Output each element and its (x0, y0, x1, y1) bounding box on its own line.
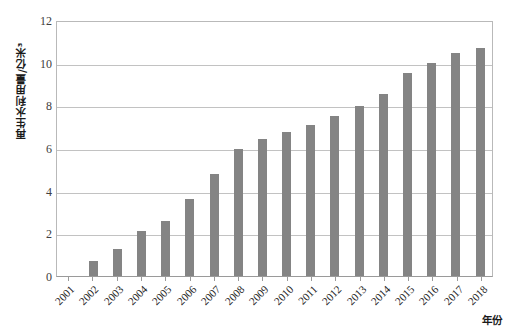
bar[interactable] (330, 116, 339, 276)
bar[interactable] (210, 174, 219, 276)
bar-slot (299, 22, 323, 276)
x-axis-label-slot: 2007 (202, 281, 226, 327)
bar-slot (226, 22, 250, 276)
bar[interactable] (258, 139, 267, 276)
x-axis-label-slot: 2003 (105, 281, 129, 327)
x-axis-label-slot: 2004 (129, 281, 153, 327)
x-axis-tick-label: 2016 (417, 283, 441, 307)
bar-slot (250, 22, 274, 276)
y-axis-tick-label: 10 (30, 56, 52, 71)
x-axis-tick-label: 2012 (320, 283, 344, 307)
bar[interactable] (161, 221, 170, 276)
x-axis-label-slot: 2017 (445, 281, 469, 327)
bar-slot (323, 22, 347, 276)
x-axis-tick-label: 2002 (77, 283, 101, 307)
x-axis-label-slot: 2008 (226, 281, 250, 327)
bar[interactable] (427, 63, 436, 276)
x-axis-tick-label: 2017 (441, 283, 465, 307)
x-axis-label-slot: 2001 (56, 281, 80, 327)
y-axis-tick-label: 6 (30, 142, 52, 157)
bar[interactable] (476, 48, 485, 276)
bar[interactable] (306, 125, 315, 276)
x-axis-tick-label: 2008 (223, 283, 247, 307)
x-axis-label-slot: 2002 (80, 281, 104, 327)
y-axis-title: 再生水利用量/亿米³ (12, 16, 30, 166)
bar-series (57, 22, 492, 276)
bar[interactable] (451, 53, 460, 276)
bar[interactable] (137, 231, 146, 276)
bar[interactable] (113, 249, 122, 276)
x-axis-label-slot: 2014 (372, 281, 396, 327)
x-axis-tick-label: 2006 (174, 283, 198, 307)
y-axis-tick-label: 12 (30, 14, 52, 29)
x-axis-tick-label: 2013 (344, 283, 368, 307)
x-axis-label-slot: 2010 (275, 281, 299, 327)
x-axis-tick-label: 2010 (271, 283, 295, 307)
bar[interactable] (234, 149, 243, 276)
bar-slot (81, 22, 105, 276)
bar-slot (105, 22, 129, 276)
y-axis-tick-labels: 024681012 (30, 21, 52, 277)
bar-slot (202, 22, 226, 276)
bar-slot (154, 22, 178, 276)
x-axis-label-slot: 2012 (323, 281, 347, 327)
x-axis-tick-label: 2005 (150, 283, 174, 307)
bar-slot (371, 22, 395, 276)
bar[interactable] (403, 73, 412, 276)
x-axis-tick-label: 2011 (296, 283, 320, 307)
bar-slot (57, 22, 81, 276)
y-axis-tick-label: 2 (30, 227, 52, 242)
x-axis-label-slot: 2011 (299, 281, 323, 327)
bar[interactable] (89, 261, 98, 276)
x-axis-tick-label: 2001 (53, 283, 77, 307)
x-axis-label-slot: 2016 (420, 281, 444, 327)
bar-slot (178, 22, 202, 276)
x-axis-tick-label: 2007 (198, 283, 222, 307)
bar-slot (468, 22, 492, 276)
x-axis-label-slot: 2015 (396, 281, 420, 327)
x-axis-tick-label: 2004 (125, 283, 149, 307)
bar-slot (275, 22, 299, 276)
x-axis-tick-label: 2018 (465, 283, 489, 307)
x-axis-tick-label: 2003 (101, 283, 125, 307)
bar-slot (347, 22, 371, 276)
bar-slot (130, 22, 154, 276)
y-axis-tick-label: 4 (30, 184, 52, 199)
bar[interactable] (185, 199, 194, 276)
x-axis-label-slot: 2006 (177, 281, 201, 327)
x-axis-tick-label: 2009 (247, 283, 271, 307)
x-axis-tick-label: 2014 (368, 283, 392, 307)
x-axis-label-slot: 2009 (250, 281, 274, 327)
bar-slot (395, 22, 419, 276)
bar[interactable] (355, 106, 364, 276)
x-axis-tick-label: 2015 (393, 283, 417, 307)
x-axis-tick-labels: 2001200220032004200520062007200820092010… (56, 281, 493, 327)
bar[interactable] (379, 94, 388, 276)
bar-chart: 再生水利用量/亿米³ 024681012 2001200220032004200… (0, 0, 508, 333)
x-axis-title: 年份 (482, 312, 502, 327)
bar[interactable] (282, 132, 291, 276)
bar-slot (444, 22, 468, 276)
x-axis-label-slot: 2013 (347, 281, 371, 327)
plot-area (56, 21, 493, 277)
y-axis-tick-label: 8 (30, 99, 52, 114)
bar-slot (420, 22, 444, 276)
x-axis-label-slot: 2005 (153, 281, 177, 327)
y-axis-tick-label: 0 (30, 270, 52, 285)
